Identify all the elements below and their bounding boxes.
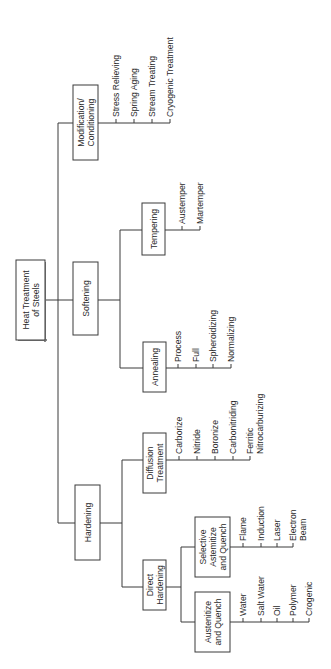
leaf-martemper: Martemper [195, 182, 205, 224]
leaf-spheroidizing: Spheroidizing [208, 310, 218, 362]
heat-treatment-tree-diagram: Heat Treatmentof SteelsModification/Cond… [0, 0, 331, 669]
tree-nodes: Heat Treatmentof SteelsModification/Cond… [16, 37, 314, 652]
leaf-nitride: Nitride [192, 429, 202, 454]
leaf-flame: Flame [238, 517, 248, 541]
hardening-node-label: Hardening [83, 502, 93, 542]
leaf-polymer: Polymer [288, 584, 298, 616]
leaf-full: Full [191, 348, 201, 362]
leaf-salt-water: Salt Water [256, 576, 266, 616]
leaf-stream-treating: Stream Treating [147, 56, 157, 117]
annealing-node-label: Annealing [150, 348, 160, 386]
leaf-oil: Oil [272, 605, 282, 616]
leaf-cryogenic-treatment: Cryogenic Treatment [165, 37, 175, 117]
leaf-ferritic-nitrocarburizing: FerriticNitrocarburizing [245, 394, 265, 454]
leaf-carborize: Carborize [174, 417, 184, 454]
leaf-laser: Laser [272, 519, 282, 541]
leaf-boronize: Boronize [210, 420, 220, 454]
leaf-crogenic: Crogenic [304, 581, 314, 616]
leaf-normalizing: Normalizing [226, 316, 236, 362]
leaf-process: Process [173, 331, 183, 362]
selective-node-label: SelectiveAstemitizeand Quench [198, 523, 228, 570]
leaf-spring-aging: Spring Aging [129, 68, 139, 117]
leaf-induction: Induction [256, 506, 266, 541]
austenitize-node-label: Austenitizeand Quench [203, 598, 223, 645]
modification-node-label: Modification/Conditioning [76, 98, 96, 147]
leaf-electron-beam: ElectronBeam [288, 509, 308, 541]
leaf-stress-relieving: Stress Relieving [111, 55, 121, 117]
leaf-water: Water [238, 593, 248, 616]
diffusion-node-label: DiffusionTreatment [145, 443, 165, 482]
leaf-carbonitriding: Carbonitriding [228, 400, 238, 454]
leaf-austemper: Austemper [177, 182, 187, 224]
softening-node-label: Softening [81, 280, 91, 317]
tempering-node-label: Tempering [149, 209, 159, 249]
